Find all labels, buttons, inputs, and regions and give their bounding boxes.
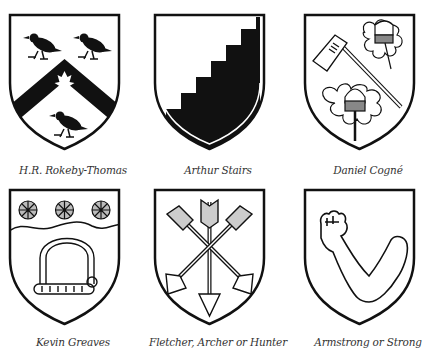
shield-rokeby-thomas xyxy=(8,13,123,153)
caption-armstrong: Armstrong or Strong xyxy=(283,336,427,348)
shield-cogne xyxy=(303,13,418,153)
shield-fletcher xyxy=(153,188,268,328)
snowflake-icon xyxy=(56,201,74,219)
shield-armstrong xyxy=(303,188,418,328)
caption-fletcher: Fletcher, Archer or Hunter xyxy=(133,336,303,348)
shield-stairs xyxy=(153,13,268,153)
shield-greaves xyxy=(8,188,123,328)
caption-stairs: Arthur Stairs xyxy=(133,164,303,176)
caption-cogne: Daniel Cogné xyxy=(283,164,427,176)
snowflake-icon xyxy=(19,201,37,219)
snowflake-icon xyxy=(92,201,110,219)
